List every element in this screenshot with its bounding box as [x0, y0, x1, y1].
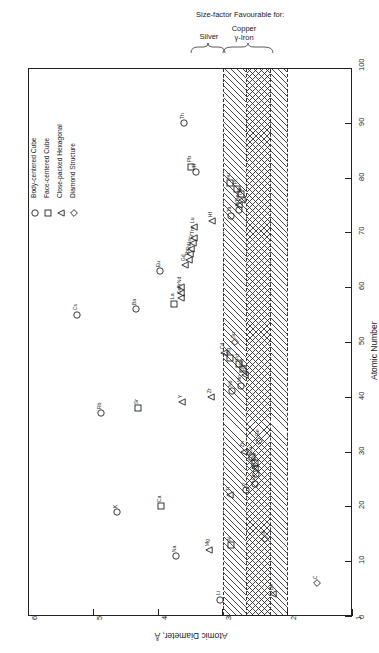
- data-point-label: Lu: [190, 217, 195, 223]
- data-point-label: Ca: [157, 496, 162, 503]
- data-point-label: Zn: [240, 442, 245, 448]
- circle-icon: [242, 486, 250, 494]
- data-point-label: Al: [227, 536, 232, 541]
- data-point-label: Ru: [241, 364, 246, 371]
- data-point-label: Cs: [73, 304, 78, 310]
- triangle-icon: [241, 371, 249, 379]
- data-point-label: Nd: [177, 277, 182, 284]
- data-point-label: Sn: [231, 332, 236, 338]
- circle-icon: [156, 267, 164, 275]
- diamond-icon: [313, 579, 321, 587]
- data-point-label: La: [170, 294, 175, 300]
- circle-icon: [237, 382, 245, 390]
- triangle-icon: [207, 393, 215, 401]
- triangle-icon: [190, 234, 198, 242]
- data-point-label: K: [113, 504, 118, 507]
- diamond-icon: [261, 535, 269, 543]
- circle-icon: [228, 387, 236, 395]
- data-point-label: Y: [178, 395, 183, 398]
- data-point-label: Ti: [225, 487, 230, 491]
- circle-icon: [113, 508, 121, 516]
- square-icon: [226, 179, 234, 187]
- square-icon: [227, 541, 235, 549]
- data-point-label: Au: [226, 173, 231, 179]
- data-point-label: Li: [216, 592, 221, 596]
- circle-icon: [97, 409, 105, 417]
- triangle-icon: [177, 283, 185, 291]
- square-icon: [187, 163, 195, 171]
- data-point-label: Eu: [156, 260, 161, 266]
- data-point-label: Be: [269, 584, 274, 590]
- data-point-label: Si: [261, 531, 266, 536]
- data-point-label: Pb: [186, 156, 191, 162]
- data-point-label: Na: [172, 545, 177, 552]
- circle-icon: [73, 311, 81, 319]
- data-point-label: C: [313, 575, 318, 579]
- triangle-icon: [238, 196, 246, 204]
- triangle-icon: [251, 464, 259, 472]
- triangle-icon: [208, 217, 216, 225]
- square-icon: [134, 404, 142, 412]
- data-point-label: Pd: [235, 354, 240, 360]
- circle-icon: [216, 596, 224, 604]
- data-point-label: Co: [251, 457, 256, 464]
- data-point-label: Ge: [254, 430, 259, 437]
- square-icon: [157, 502, 165, 510]
- circle-icon: [132, 305, 140, 313]
- data-point-label: Sr: [134, 399, 139, 404]
- triangle-icon: [178, 398, 186, 406]
- data-point-label: Cd: [220, 342, 225, 349]
- data-point-label: Ba: [131, 299, 136, 305]
- data-point-label: Th: [179, 113, 184, 119]
- data-point-label: Zr: [207, 388, 212, 393]
- diamond-icon: [255, 437, 263, 445]
- triangle-icon: [226, 491, 234, 499]
- circle-icon: [251, 480, 259, 488]
- data-point-label: Os: [238, 189, 243, 196]
- triangle-icon: [240, 448, 248, 456]
- data-point-label: Ta: [227, 206, 232, 211]
- circle-icon: [180, 119, 188, 127]
- data-point-label: Hf: [208, 212, 213, 217]
- data-point-label: V: [242, 482, 247, 485]
- triangle-icon: [269, 590, 277, 598]
- circle-icon: [172, 552, 180, 560]
- data-point-label: Rb: [96, 403, 101, 410]
- triangle-icon: [220, 349, 228, 357]
- triangle-icon: [205, 546, 213, 554]
- triangle-icon: [190, 223, 198, 231]
- diamond-icon: [231, 338, 239, 346]
- data-points-layer: LiNaKVCrFeRbNbMoCsBaEuTaWTlThAlCaNiCuSrR…: [0, 0, 379, 653]
- data-point-label: Nb: [228, 381, 233, 388]
- data-point-label: Mg: [205, 539, 210, 546]
